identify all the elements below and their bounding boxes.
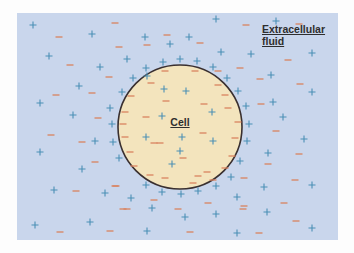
positive-charge-icon	[167, 41, 174, 48]
positive-charge-icon	[237, 158, 244, 165]
positive-charge-icon	[265, 150, 272, 157]
positive-charge-icon	[97, 64, 104, 71]
positive-charge-icon	[87, 219, 94, 226]
positive-charge-icon	[143, 65, 150, 72]
positive-charge-icon	[51, 187, 58, 194]
positive-charge-icon	[46, 53, 53, 60]
positive-charge-icon	[224, 75, 231, 82]
positive-charge-icon	[186, 34, 193, 41]
positive-charge-icon	[143, 182, 150, 189]
label-line-1: Extracellular	[262, 23, 325, 35]
positive-charge-icon	[244, 138, 251, 145]
positive-charge-icon	[270, 99, 277, 106]
positive-charge-icon	[218, 49, 225, 56]
positive-charge-icon	[107, 105, 114, 112]
positive-charge-icon	[234, 230, 241, 237]
positive-charge-icon	[119, 89, 126, 96]
positive-charge-icon	[32, 222, 39, 229]
positive-charge-icon	[280, 114, 287, 121]
positive-charge-icon	[210, 64, 217, 71]
positive-charge-icon	[30, 22, 37, 29]
positive-charge-icon	[76, 83, 83, 90]
positive-charge-icon	[264, 209, 271, 216]
positive-charge-icon	[246, 121, 253, 128]
positive-charge-icon	[213, 16, 220, 23]
positive-charge-icon	[309, 89, 316, 96]
positive-charge-icon	[144, 228, 151, 235]
positive-charge-icon	[102, 190, 109, 197]
positive-charge-icon	[79, 166, 86, 173]
positive-charge-icon	[194, 58, 201, 65]
positive-charge-icon	[309, 50, 316, 57]
positive-charge-icon	[261, 184, 268, 191]
positive-charge-icon	[228, 174, 235, 181]
extracellular-fluid-label: Extracellular fluid	[262, 23, 325, 47]
positive-charge-icon	[89, 31, 96, 38]
positive-charge-icon	[124, 56, 131, 63]
positive-charge-icon	[149, 205, 156, 212]
positive-charge-icon	[92, 138, 99, 145]
positive-charge-icon	[178, 191, 185, 198]
positive-charge-icon	[309, 225, 316, 232]
positive-charge-icon	[142, 34, 149, 41]
positive-charge-icon	[128, 195, 135, 202]
positive-charge-icon	[195, 188, 202, 195]
positive-charge-icon	[243, 103, 250, 110]
positive-charge-icon	[213, 211, 220, 218]
positive-charge-icon	[110, 139, 117, 146]
label-line-2: fluid	[262, 35, 325, 47]
positive-charge-icon	[160, 59, 167, 66]
positive-charge-icon	[37, 149, 44, 156]
positive-charge-icon	[177, 56, 184, 63]
positive-charge-icon	[37, 100, 44, 107]
positive-charge-icon	[309, 182, 316, 189]
cell-label: Cell	[169, 116, 191, 128]
positive-charge-icon	[130, 75, 137, 82]
positive-charge-icon	[268, 72, 275, 79]
positive-charge-icon	[234, 194, 241, 201]
positive-charge-icon	[116, 155, 123, 162]
positive-charge-icon	[70, 112, 77, 119]
positive-charge-icon	[213, 183, 220, 190]
positive-charge-icon	[248, 51, 255, 58]
positive-charge-icon	[159, 189, 166, 196]
positive-charge-icon	[235, 88, 242, 95]
positive-charge-icon	[182, 214, 189, 221]
positive-charge-icon	[109, 121, 116, 128]
positive-charge-icon	[301, 136, 308, 143]
